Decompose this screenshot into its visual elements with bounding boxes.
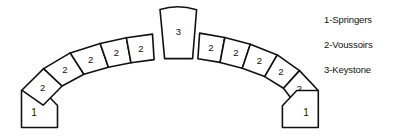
springer-right-label: 1 — [303, 107, 309, 118]
legend-item-keystone: 3-Keystone — [324, 64, 396, 76]
voussoir-left-1-label: 2 — [40, 82, 45, 93]
springer-right-shape — [282, 91, 318, 128]
legend-item-springers: 1-Springers — [324, 14, 396, 26]
legend-item-voussoirs: 2-Voussoirs — [324, 39, 396, 51]
legend: 1-Springers 2-Voussoirs 3-Keystone — [324, 14, 396, 76]
keystone: 3 — [160, 7, 197, 59]
arch-diagram-figure: 1 2 2 2 2 2 — [0, 0, 396, 137]
voussoir-left-5-label: 2 — [138, 43, 143, 54]
voussoir-left-4-label: 2 — [114, 47, 119, 58]
voussoir-left-5: 2 — [126, 34, 154, 63]
voussoir-right-1-label: 2 — [208, 42, 213, 53]
voussoir-right-2-label: 2 — [233, 47, 238, 58]
voussoir-left-3-label: 2 — [88, 54, 93, 65]
voussoirs-left: 2 2 2 2 2 — [22, 34, 154, 105]
keystone-label: 3 — [176, 26, 181, 37]
springer-left-label: 1 — [31, 107, 37, 118]
voussoir-left-2-label: 2 — [62, 64, 67, 75]
voussoir-right-4-label: 2 — [278, 66, 283, 77]
springer-right: 1 — [282, 91, 318, 128]
voussoir-right-3-label: 2 — [257, 55, 262, 66]
